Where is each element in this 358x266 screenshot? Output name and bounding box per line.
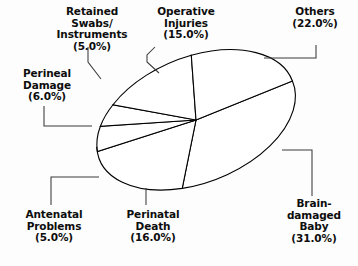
leader-line-antenatal-problems	[51, 177, 99, 205]
slice-label-retained-swabs-instruments: Retained Swabs/ Instruments (5.0%)	[44, 6, 140, 52]
slice-label-perineal-damage: Perineal Damage (6.0%)	[8, 68, 86, 103]
leader-line-others	[264, 45, 316, 58]
leader-line-brain-damaged-baby	[282, 150, 312, 196]
slice-label-perinatal-death: Perinatal Death (16.0%)	[108, 209, 198, 244]
slice-label-antenatal-problems: Antenatal Problems (5.0%)	[8, 209, 100, 244]
slice-label-others: Others (22.0%)	[276, 6, 354, 29]
slice-label-brain-damaged-baby: Brain- damaged Baby (31.0%)	[274, 198, 354, 244]
slice-label-operative-injuries: Operative Injuries (15.0%)	[140, 6, 232, 41]
pie-chart-figure: Retained Swabs/ Instruments (5.0%) Opera…	[0, 0, 358, 266]
leader-line-perineal-damage	[44, 106, 92, 126]
